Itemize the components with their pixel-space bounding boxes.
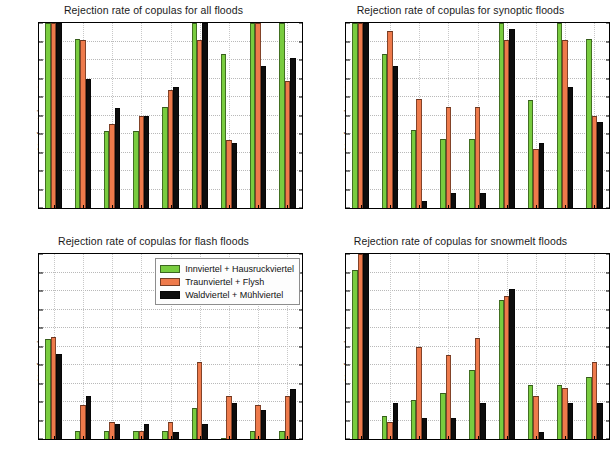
y-tick-mark-right bbox=[606, 60, 610, 61]
y-tick-mark-right bbox=[299, 152, 303, 153]
y-tick-mark bbox=[346, 420, 350, 421]
y-tick-mark-right bbox=[606, 97, 610, 98]
bar bbox=[568, 403, 573, 439]
y-tick-mark-right bbox=[299, 60, 303, 61]
x-tick-mark bbox=[507, 436, 508, 440]
x-tick-mark bbox=[54, 205, 55, 209]
y-tick-mark-right bbox=[606, 152, 610, 153]
plot-area: 0102030405060708090100clafragalgumhusjoe… bbox=[345, 253, 610, 440]
bar bbox=[451, 418, 456, 439]
x-tick-mark bbox=[54, 436, 55, 440]
y-tick-mark bbox=[346, 97, 350, 98]
bar bbox=[539, 432, 544, 439]
legend-swatch-2 bbox=[160, 278, 180, 286]
y-tick-mark-right bbox=[606, 272, 610, 273]
bar bbox=[451, 193, 456, 208]
y-tick-mark bbox=[39, 115, 43, 116]
x-tick-mark bbox=[141, 436, 142, 440]
y-tick-mark-right bbox=[299, 420, 303, 421]
plot-wrap: 0102030405060708090100clafragalgumhusjoe… bbox=[38, 22, 303, 209]
x-tick-mark bbox=[594, 205, 595, 209]
x-tick-mark bbox=[361, 436, 362, 440]
plot-area: Innviertel + HausruckviertelTraunviertel… bbox=[38, 253, 303, 440]
x-tick-mark bbox=[83, 436, 84, 440]
chart-title: Rejection rate of copulas for synoptic f… bbox=[307, 4, 614, 16]
bar bbox=[56, 354, 61, 439]
legend-item: Waldviertel + Mühlviertel bbox=[160, 288, 294, 301]
y-tick-mark bbox=[346, 383, 350, 384]
y-tick-mark-right bbox=[299, 115, 303, 116]
y-tick-mark bbox=[39, 171, 43, 172]
y-tick-mark bbox=[346, 115, 350, 116]
y-tick-mark-right bbox=[299, 41, 303, 42]
y-tick-mark bbox=[346, 171, 350, 172]
x-tick-mark bbox=[229, 436, 230, 440]
gridline bbox=[39, 383, 302, 384]
bar bbox=[422, 201, 427, 208]
y-tick-mark-right bbox=[606, 291, 610, 292]
gridline bbox=[39, 327, 302, 328]
y-tick-mark bbox=[39, 60, 43, 61]
plot-area: 0102030405060708090100clafragalgumhusjoe… bbox=[38, 22, 303, 209]
y-tick-mark-right bbox=[299, 189, 303, 190]
y-tick-mark-right bbox=[299, 23, 303, 24]
y-tick-mark-right bbox=[299, 254, 303, 255]
legend-swatch-3 bbox=[160, 291, 180, 299]
y-tick-mark-right bbox=[606, 402, 610, 403]
y-tick-mark bbox=[39, 420, 43, 421]
y-tick-mark-right bbox=[606, 254, 610, 255]
gridline bbox=[39, 401, 302, 402]
x-tick-mark bbox=[361, 205, 362, 209]
y-tick-mark-right bbox=[299, 134, 303, 135]
y-tick-mark-right bbox=[606, 134, 610, 135]
y-tick-mark-right bbox=[606, 171, 610, 172]
y-tick-mark bbox=[346, 439, 350, 440]
bar bbox=[416, 99, 421, 208]
y-tick-mark bbox=[39, 189, 43, 190]
bar bbox=[480, 403, 485, 439]
y-tick-mark-right bbox=[606, 365, 610, 366]
plot-wrap: Innviertel + HausruckviertelTraunviertel… bbox=[38, 253, 303, 440]
bar bbox=[202, 23, 207, 208]
chart-panel-flash-floods: Rejection rate of copulas for flash floo… bbox=[0, 231, 307, 462]
y-tick-mark bbox=[39, 23, 43, 24]
chart-legend: Innviertel + HausruckviertelTraunviertel… bbox=[155, 258, 300, 305]
bar bbox=[144, 116, 149, 209]
plot-area: 0102030405060708090100clafragalgumhusjoe… bbox=[345, 22, 610, 209]
y-tick-mark bbox=[39, 402, 43, 403]
y-tick-mark-right bbox=[299, 208, 303, 209]
x-tick-mark bbox=[419, 205, 420, 209]
bar bbox=[144, 424, 149, 439]
y-tick-mark bbox=[39, 254, 43, 255]
bar bbox=[261, 66, 266, 208]
x-tick-mark bbox=[83, 205, 84, 209]
y-tick-mark bbox=[39, 208, 43, 209]
x-tick-mark bbox=[200, 436, 201, 440]
chart-title: Rejection rate of copulas for flash floo… bbox=[0, 235, 307, 247]
y-tick-mark-right bbox=[299, 171, 303, 172]
gridline bbox=[346, 309, 609, 310]
y-tick-mark bbox=[346, 402, 350, 403]
x-tick-mark bbox=[478, 436, 479, 440]
bar bbox=[422, 418, 427, 439]
y-tick-mark-right bbox=[606, 309, 610, 310]
y-tick-mark-right bbox=[606, 208, 610, 209]
x-tick-mark bbox=[287, 436, 288, 440]
y-tick-mark-right bbox=[299, 78, 303, 79]
figure-page: Rejection rate of copulas for all floods… bbox=[0, 0, 614, 462]
y-tick-mark-right bbox=[606, 439, 610, 440]
bar bbox=[86, 79, 91, 208]
y-tick-mark-right bbox=[606, 328, 610, 329]
bar bbox=[232, 403, 237, 439]
y-tick-mark-right bbox=[299, 97, 303, 98]
y-tick-mark-right bbox=[606, 383, 610, 384]
x-tick-mark bbox=[390, 436, 391, 440]
x-tick-mark bbox=[594, 436, 595, 440]
y-tick-mark bbox=[39, 365, 43, 366]
y-tick-mark bbox=[39, 152, 43, 153]
x-tick-mark bbox=[112, 436, 113, 440]
bar bbox=[393, 403, 398, 439]
bar bbox=[261, 410, 266, 439]
y-tick-mark-right bbox=[299, 439, 303, 440]
x-tick-mark bbox=[229, 205, 230, 209]
